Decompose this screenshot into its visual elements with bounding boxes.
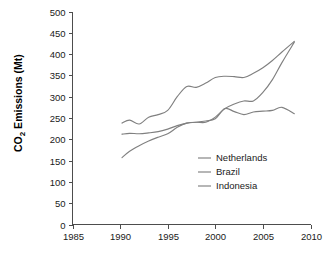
y-tick-label: 50 bbox=[55, 198, 66, 209]
y-axis-title-prefix: CO bbox=[12, 136, 24, 152]
legend-label-indonesia: Indonesia bbox=[216, 180, 258, 191]
y-tick-label: 100 bbox=[50, 177, 66, 188]
y-tick-label: 500 bbox=[50, 7, 66, 18]
co2-emissions-line-chart: CO2 Emissions (Mt) 050100150200250300350… bbox=[0, 0, 327, 256]
y-tick-label: 0 bbox=[60, 220, 65, 231]
x-tick-label: 1995 bbox=[158, 231, 179, 242]
legend-label-brazil: Brazil bbox=[216, 166, 240, 177]
y-tick-label: 350 bbox=[50, 70, 66, 81]
y-tick-label: 200 bbox=[50, 134, 66, 145]
x-tick-label: 2000 bbox=[205, 231, 226, 242]
y-tick-label: 300 bbox=[50, 92, 66, 103]
y-axis-title-suffix: Emissions (Mt) bbox=[12, 54, 24, 129]
x-tick-label: 2010 bbox=[301, 231, 322, 242]
legend-label-netherlands: Netherlands bbox=[216, 152, 267, 163]
chart-plot-area: CO2 Emissions (Mt) 050100150200250300350… bbox=[0, 0, 327, 256]
x-tick-label: 2005 bbox=[253, 231, 274, 242]
x-tick-label: 1985 bbox=[63, 231, 84, 242]
y-tick-label: 400 bbox=[50, 49, 66, 60]
y-tick-label: 250 bbox=[50, 113, 66, 124]
x-tick-label: 1990 bbox=[110, 231, 131, 242]
y-tick-label: 150 bbox=[50, 156, 66, 167]
y-tick-label: 450 bbox=[50, 28, 66, 39]
